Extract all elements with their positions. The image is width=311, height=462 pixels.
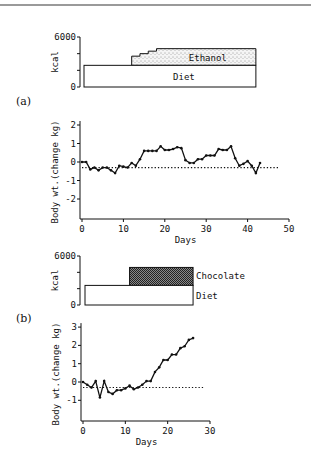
y-tick-label: 3 xyxy=(72,322,77,332)
data-point xyxy=(205,154,208,157)
x-tick-label: 0 xyxy=(79,224,84,234)
x-tick-label: 20 xyxy=(162,426,173,436)
data-point xyxy=(255,172,258,175)
y-tick-label: -1 xyxy=(65,176,76,186)
data-point xyxy=(124,387,127,390)
data-point xyxy=(97,169,100,172)
data-point xyxy=(149,380,152,383)
ethanol-label: Ethanol xyxy=(189,53,227,63)
y-tick-label: 2 xyxy=(72,340,77,350)
data-point xyxy=(176,146,179,149)
data-point xyxy=(179,347,182,350)
data-point xyxy=(172,148,175,151)
x-tick-label: 10 xyxy=(118,224,129,234)
data-point xyxy=(158,366,161,369)
kcal-chart-0: 06000kcalEthanolDiet xyxy=(50,32,256,92)
data-point xyxy=(183,345,186,348)
data-point xyxy=(116,389,119,392)
panel-label-a: (a) xyxy=(16,95,31,108)
data-point xyxy=(238,164,241,167)
data-point xyxy=(259,162,262,165)
data-point xyxy=(101,166,104,169)
y-axis-label: Body wt.(change kg) xyxy=(50,121,60,224)
data-point xyxy=(89,168,92,171)
data-point xyxy=(226,149,229,152)
data-point xyxy=(107,391,110,394)
data-point xyxy=(137,386,140,389)
data-point xyxy=(188,162,191,165)
y-axis-label: Body wt.(change kg) xyxy=(51,323,61,426)
data-point xyxy=(106,166,109,169)
data-point xyxy=(147,150,150,153)
data-point xyxy=(154,371,157,374)
data-point xyxy=(246,160,249,163)
data-point xyxy=(120,389,123,392)
data-point xyxy=(192,162,195,165)
data-point xyxy=(184,159,187,162)
data-point xyxy=(201,158,204,161)
data-point xyxy=(234,157,237,160)
data-point xyxy=(82,381,85,384)
weight-line xyxy=(82,146,260,173)
data-point xyxy=(110,169,113,172)
y-tick-label: -1 xyxy=(66,395,77,405)
diet-label: Diet xyxy=(173,72,195,82)
y-tick-label: 0 xyxy=(71,157,76,167)
data-point xyxy=(139,158,142,161)
data-point xyxy=(126,166,129,169)
data-point xyxy=(130,162,133,165)
data-point xyxy=(221,149,224,152)
data-point xyxy=(90,386,93,389)
data-point xyxy=(143,150,146,153)
data-point xyxy=(209,154,212,157)
y-tick-label: 1 xyxy=(71,139,76,149)
weight-chart-3: -101230102030DaysBody wt.(change kg) xyxy=(51,322,215,447)
x-tick-label: 50 xyxy=(284,224,295,234)
data-point xyxy=(145,380,148,383)
data-point xyxy=(141,383,144,386)
data-point xyxy=(197,158,200,161)
y-tick-label: 0 xyxy=(71,82,76,92)
data-point xyxy=(114,172,117,175)
data-point xyxy=(159,145,162,148)
data-point xyxy=(94,380,97,383)
data-point xyxy=(81,161,84,164)
x-tick-label: 20 xyxy=(159,224,170,234)
data-point xyxy=(217,148,220,151)
x-tick-label: 0 xyxy=(80,426,85,436)
data-point xyxy=(180,147,183,150)
data-point xyxy=(103,380,106,383)
data-point xyxy=(171,353,174,356)
y-tick-label: 2 xyxy=(71,120,76,130)
data-point xyxy=(250,164,253,167)
y-tick-label: 1 xyxy=(72,359,77,369)
panel-label-b: (b) xyxy=(16,312,32,325)
chocolate-label: Chocolate xyxy=(196,271,245,281)
y-tick-label: 0 xyxy=(71,300,76,310)
data-point xyxy=(213,154,216,157)
x-tick-label: 10 xyxy=(120,426,131,436)
weight-chart-1: -2-101201020304050DaysBody wt.(change kg… xyxy=(50,120,294,245)
y-tick-label: 6000 xyxy=(54,251,76,261)
data-point xyxy=(111,393,114,396)
data-point xyxy=(122,165,125,168)
data-point xyxy=(192,337,195,340)
data-point xyxy=(133,388,136,391)
data-point xyxy=(93,166,96,169)
x-tick-label: 30 xyxy=(201,224,212,234)
data-point xyxy=(242,163,245,166)
data-point xyxy=(151,150,154,153)
data-point xyxy=(128,384,131,387)
kcal-chart-2: 06000kcalChocolateDiet xyxy=(50,251,245,310)
data-point xyxy=(168,149,171,152)
y-tick-label: -2 xyxy=(65,194,76,204)
y-axis-label: kcal xyxy=(50,270,60,292)
diet-area xyxy=(85,285,193,305)
x-axis-label: Days xyxy=(136,437,158,447)
data-point xyxy=(188,339,191,342)
data-point xyxy=(99,396,102,399)
figure: (a)(b)06000kcalEthanolDiet-2-10120102030… xyxy=(0,0,311,462)
data-point xyxy=(118,164,121,167)
y-tick-label: 0 xyxy=(72,377,77,387)
x-tick-label: 40 xyxy=(242,224,253,234)
